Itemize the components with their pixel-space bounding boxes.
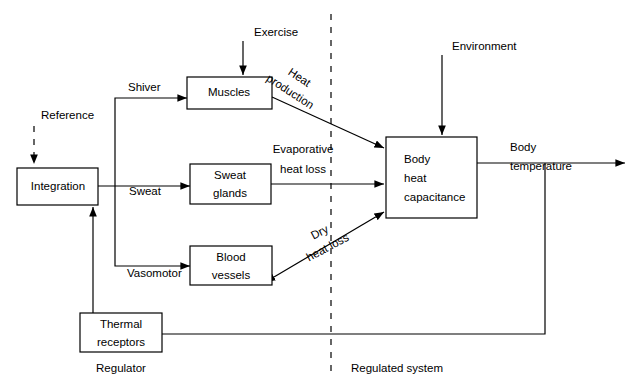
label-heat-production: Heat production — [264, 58, 325, 112]
label-dry-heat-loss-line1: Dry — [309, 223, 331, 242]
box-label-thermal-receptors-1: Thermal — [100, 318, 142, 330]
label-exercise: Exercise — [254, 26, 298, 38]
heat-production-arrow — [272, 97, 384, 148]
diagram-canvas: Integration Muscles Sweat glands Blood v… — [0, 0, 631, 385]
label-evaporative-heat-loss-line2: heat loss — [280, 163, 326, 175]
label-vasomotor: Vasomotor — [127, 267, 182, 279]
box-label-sweat-glands-2: glands — [213, 187, 247, 199]
box-label-thermal-receptors-2: receptors — [97, 336, 145, 348]
box-label-muscles: Muscles — [208, 86, 250, 98]
label-environment: Environment — [452, 40, 517, 52]
label-evaporative-heat-loss-line1: Evaporative — [273, 143, 334, 155]
vasomotor-branch-line — [115, 186, 190, 266]
label-shiver: Shiver — [128, 81, 161, 93]
box-label-sweat-glands-1: Sweat — [214, 169, 247, 181]
box-label-body-heat-1: Body — [404, 153, 430, 165]
box-label-body-heat-3: capacitance — [404, 191, 465, 203]
box-label-integration: Integration — [31, 180, 85, 192]
box-body-heat-capacitance[interactable] — [386, 137, 477, 218]
label-sweat: Sweat — [129, 185, 162, 197]
box-label-body-heat-2: heat — [404, 172, 427, 184]
thermoregulation-diagram: Integration Muscles Sweat glands Blood v… — [0, 0, 631, 385]
shiver-branch-line — [115, 98, 187, 186]
label-reference: Reference — [41, 109, 94, 121]
box-label-blood-vessels-2: vessels — [212, 269, 251, 281]
label-body-temperature-line1: Body — [510, 141, 536, 153]
label-regulated-system: Regulated system — [351, 362, 443, 374]
label-body-temperature-line2: temperature — [510, 160, 572, 172]
label-regulator: Regulator — [96, 362, 146, 374]
box-label-blood-vessels-1: Blood — [216, 251, 245, 263]
label-dry-heat-loss: Dry heat loss — [296, 216, 350, 263]
